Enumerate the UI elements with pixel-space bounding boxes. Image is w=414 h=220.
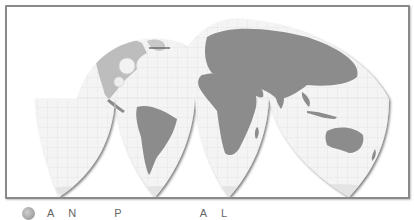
highlight-marker-small: [114, 77, 124, 87]
globe-icon: [22, 207, 35, 220]
highlight-marker: [119, 58, 135, 74]
caption-word-1: A: [47, 207, 54, 220]
caption-word-2: N: [68, 207, 76, 220]
caption-word-3: P: [114, 207, 121, 220]
caption: A N P A L: [22, 207, 227, 220]
caption-word-5: L: [221, 207, 227, 220]
map-frame: [5, 5, 410, 199]
caption-word-4: A: [200, 207, 207, 220]
world-map: [7, 7, 408, 197]
